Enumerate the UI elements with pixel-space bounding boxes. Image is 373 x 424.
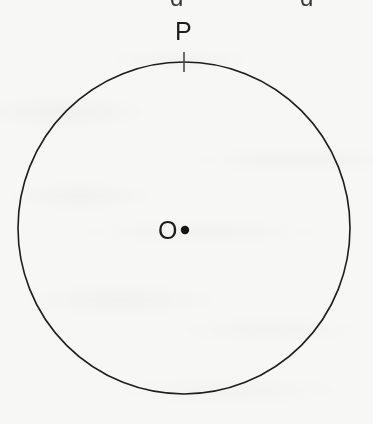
circle-geometry-figure: g g P O	[0, 0, 373, 424]
diagram-canvas	[0, 0, 373, 424]
center-point-dot	[181, 226, 189, 234]
point-p-label: P	[175, 19, 192, 44]
center-point-label: O	[158, 218, 177, 243]
